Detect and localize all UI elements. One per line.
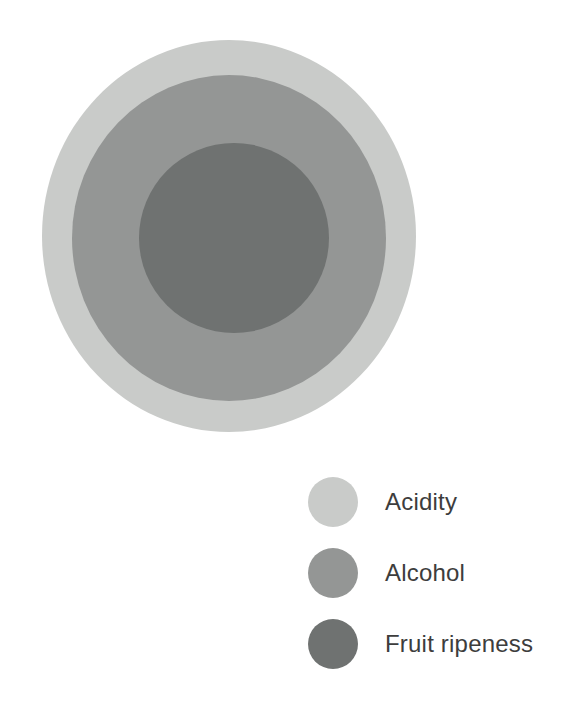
legend-label-fruit-ripeness: Fruit ripeness [385, 630, 533, 658]
legend-item-acidity[interactable]: Acidity [308, 466, 574, 537]
chart-legend: Acidity Alcohol Fruit ripeness [308, 466, 574, 679]
legend-item-alcohol[interactable]: Alcohol [308, 537, 574, 608]
legend-swatch-alcohol-icon [308, 548, 358, 598]
legend-swatch-acidity-icon [308, 477, 358, 527]
legend-label-acidity: Acidity [385, 488, 457, 516]
legend-swatch-fruit-ripeness-icon [308, 619, 358, 669]
legend-label-alcohol: Alcohol [385, 559, 465, 587]
legend-item-fruit-ripeness[interactable]: Fruit ripeness [308, 608, 574, 679]
bubble-chart: Acidity Alcohol Fruit ripeness [0, 0, 574, 702]
circle-fruit-ripeness[interactable] [139, 143, 329, 333]
